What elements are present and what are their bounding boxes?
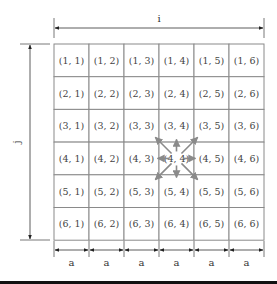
cell-label: (1, 5) — [199, 55, 225, 66]
cell-label: (4, 6) — [234, 153, 260, 164]
cell-label: (5, 6) — [234, 186, 260, 197]
cell-label: (5, 1) — [59, 186, 85, 197]
cell-label: (4, 1) — [59, 153, 85, 164]
cell-label: (5, 3) — [129, 186, 155, 197]
cell-label: (6, 5) — [199, 218, 225, 229]
cell-label: (5, 2) — [94, 186, 120, 197]
cell-label: (3, 1) — [59, 120, 85, 131]
cell-label: (5, 4) — [164, 186, 190, 197]
cell-label: (6, 4) — [164, 218, 190, 229]
cell-label: (6, 3) — [129, 218, 155, 229]
cell-label: (6, 1) — [59, 218, 85, 229]
cell-width-label: a — [244, 257, 250, 268]
cell-width-label: a — [174, 257, 180, 268]
cell-label: (2, 4) — [164, 88, 190, 99]
cell-label: (2, 1) — [59, 88, 85, 99]
cell-label: (1, 1) — [59, 55, 85, 66]
cell-label: (2, 6) — [234, 88, 260, 99]
vertical-dimension: j — [11, 44, 50, 240]
cell-label: (1, 2) — [94, 55, 120, 66]
cell-label: (1, 3) — [129, 55, 155, 66]
cell-width-label: a — [139, 257, 145, 268]
cell-label: (3, 6) — [234, 120, 260, 131]
cell-width-label: a — [69, 257, 75, 268]
dimension-label-j: j — [11, 140, 22, 144]
cell-label: (3, 3) — [129, 120, 155, 131]
cell-label: (6, 6) — [234, 218, 260, 229]
cell-grid: (1, 1)(1, 2)(1, 3)(1, 4)(1, 5)(1, 6)(2, … — [54, 44, 264, 240]
horizontal-dimension: i — [54, 13, 264, 38]
cell-label: (1, 4) — [164, 55, 190, 66]
cell-label: (5, 5) — [199, 186, 225, 197]
dimension-label-i: i — [157, 13, 160, 24]
cell-label: (6, 2) — [94, 218, 120, 229]
cell-label: (3, 2) — [94, 120, 120, 131]
cell-width-dimensions: aaaaaa — [54, 241, 264, 268]
cell-width-label: a — [104, 257, 110, 268]
cell-label: (3, 4) — [164, 120, 190, 131]
cell-label: (4, 3) — [129, 153, 155, 164]
cell-label: (1, 6) — [234, 55, 260, 66]
cell-label: (2, 3) — [129, 88, 155, 99]
cell-label: (2, 2) — [94, 88, 120, 99]
cell-label: (3, 5) — [199, 120, 225, 131]
cell-label: (4, 5) — [199, 153, 225, 164]
grid-diagram: i j (1, 1)(1, 2)(1, 3)(1, 4)(1, 5)(1, 6)… — [0, 0, 277, 284]
cell-label: (4, 2) — [94, 153, 120, 164]
cell-width-label: a — [209, 257, 215, 268]
cell-label: (2, 5) — [199, 88, 225, 99]
